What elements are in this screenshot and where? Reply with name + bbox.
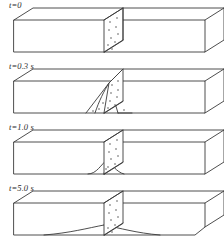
panel-t50: t=5.0 s xyxy=(0,183,224,246)
time-label-t0: t=0 xyxy=(9,1,22,10)
box-top-right-edge xyxy=(205,130,224,142)
time-label-t10: t=1.0 s xyxy=(9,123,34,132)
box-right-face xyxy=(205,69,224,113)
panel-t03: t=0.3 s xyxy=(0,61,224,123)
disturbance-arc-left xyxy=(44,225,104,235)
cross-section-slab xyxy=(104,8,123,52)
time-label-t03-text: t=0.3 s xyxy=(9,61,34,71)
box-top-right-edge xyxy=(205,69,224,81)
box-top-right-edge xyxy=(205,191,224,203)
time-label-t03: t=0.3 s xyxy=(9,62,34,71)
box-right-face xyxy=(205,130,224,174)
time-label-t10-text: t=1.0 s xyxy=(9,122,34,132)
wave-propagation-figure: t=0 xyxy=(0,0,224,246)
time-label-t50: t=5.0 s xyxy=(9,184,34,193)
cross-section-slab xyxy=(104,130,123,174)
panel-t10: t=1.0 s xyxy=(0,122,224,184)
box-right-face xyxy=(205,8,224,52)
cross-section-slab xyxy=(104,69,123,113)
panel-t0: t=0 xyxy=(0,0,224,62)
time-label-t50-text: t=5.0 s xyxy=(9,183,34,193)
box-right-face xyxy=(205,191,224,227)
panel-t0-drawing xyxy=(0,0,224,62)
time-label-t0-text: t=0 xyxy=(9,0,22,10)
box-top-right-edge xyxy=(205,8,224,20)
